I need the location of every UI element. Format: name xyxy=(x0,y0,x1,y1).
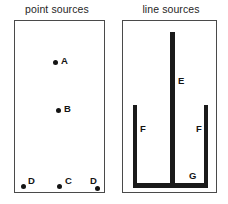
line-source-bar-f-right xyxy=(204,105,208,185)
point-source-marker-d-right xyxy=(95,186,100,191)
point-source-label-d-left: D xyxy=(28,176,35,186)
panel-title-point-sources: point sources xyxy=(0,3,114,15)
panel-point-sources: point sources A B C D D xyxy=(0,0,114,204)
line-source-bar-e xyxy=(170,32,175,185)
point-source-label-b: B xyxy=(64,104,71,114)
source-configuration-figure: point sources A B C D D line sources E F… xyxy=(0,0,228,204)
enclosure-rectangle-point-sources xyxy=(14,20,105,193)
point-source-marker-b xyxy=(56,108,61,113)
point-source-marker-d-left xyxy=(21,184,26,189)
line-source-label-f-left: F xyxy=(140,124,146,134)
panel-line-sources: line sources E F F G xyxy=(114,0,228,204)
line-source-label-e: E xyxy=(178,76,184,86)
line-source-bar-f-left xyxy=(133,105,137,185)
point-source-label-d-right: D xyxy=(90,176,97,186)
line-source-label-f-right: F xyxy=(196,124,202,134)
line-source-bar-g xyxy=(133,183,208,188)
point-source-label-c: C xyxy=(65,176,72,186)
point-source-marker-c xyxy=(57,184,62,189)
point-source-label-a: A xyxy=(61,56,68,66)
panel-title-line-sources: line sources xyxy=(114,3,228,15)
line-source-label-g: G xyxy=(189,171,196,181)
point-source-marker-a xyxy=(53,60,58,65)
